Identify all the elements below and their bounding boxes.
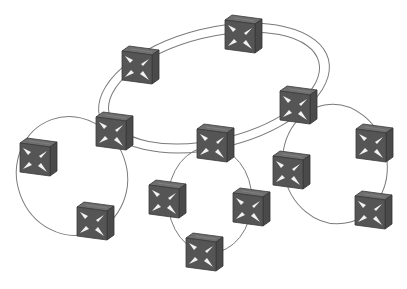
switch-device-icon[interactable] xyxy=(77,202,114,240)
switch-device-icon[interactable] xyxy=(186,233,223,271)
network-topology-diagram xyxy=(0,0,407,289)
switch-device-icon[interactable] xyxy=(96,112,133,150)
switch-device-icon[interactable] xyxy=(233,188,270,226)
switch-device-icon[interactable] xyxy=(280,86,317,124)
switch-device-icon[interactable] xyxy=(355,191,392,229)
switch-device-icon[interactable] xyxy=(225,15,262,53)
switch-device-icon[interactable] xyxy=(149,180,186,218)
switch-device-icon[interactable] xyxy=(122,46,159,84)
switch-device-icon[interactable] xyxy=(197,124,234,162)
switch-device-icon[interactable] xyxy=(356,124,393,162)
switch-device-icon[interactable] xyxy=(20,138,57,176)
switch-device-icon[interactable] xyxy=(273,151,310,189)
devices xyxy=(20,15,393,271)
links xyxy=(0,1,397,253)
